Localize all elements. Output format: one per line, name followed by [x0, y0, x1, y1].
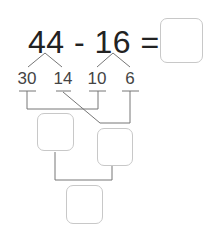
answer-box[interactable] — [160, 18, 203, 63]
subtrahend: 16 — [95, 24, 132, 60]
minuend: 44 — [28, 24, 65, 60]
part-30: 30 — [12, 69, 42, 89]
minus-sign: - — [74, 24, 85, 60]
final-result-box[interactable] — [66, 185, 103, 224]
part-6: 6 — [115, 69, 145, 89]
equals-sign: = — [141, 24, 160, 60]
decomposition-diagram: 44 - 16 = 30 14 10 6 — [0, 0, 211, 234]
ones-result-box[interactable] — [97, 128, 133, 166]
part-14: 14 — [48, 69, 78, 89]
equation: 44 - 16 = — [28, 24, 160, 61]
part-10: 10 — [82, 69, 112, 89]
tens-result-box[interactable] — [37, 113, 74, 151]
